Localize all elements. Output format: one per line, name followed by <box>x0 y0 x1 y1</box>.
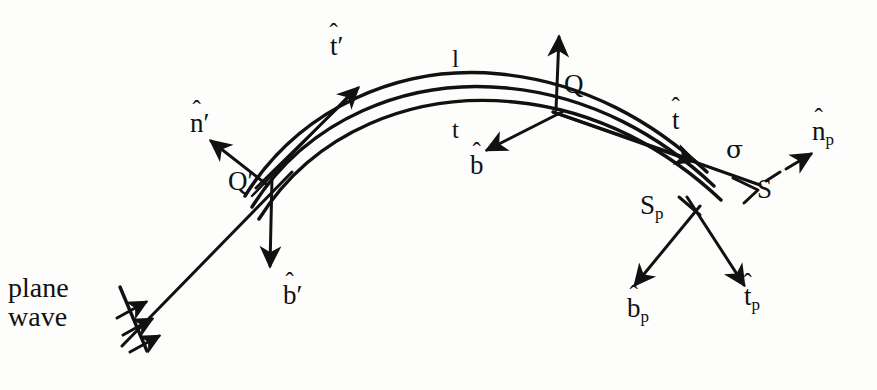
q-point-label: Q <box>564 71 584 98</box>
q-prime-point-label: Q′ <box>228 168 253 195</box>
s-p-point-label: Sp <box>640 192 664 222</box>
b-prime-label: ˆb′ <box>283 282 302 309</box>
b-p-label: ˆbp <box>627 295 649 325</box>
hat-accent-icon: ˆ <box>815 106 823 131</box>
ray-geometry-svg <box>0 0 877 390</box>
hat-accent-icon: ˆ <box>744 271 752 296</box>
b-hat-arrow <box>487 112 562 150</box>
n-prime-hatwrap: ˆn <box>190 110 204 137</box>
q-prime-mark: ′ <box>248 166 254 196</box>
t-hat-label: ˆt <box>672 107 680 134</box>
s-p-subscript: p <box>655 204 664 223</box>
hat-accent-icon: ˆ <box>193 98 201 123</box>
t-prime-hatwrap: ˆt <box>330 33 338 60</box>
s-point-label: S <box>757 176 772 203</box>
t-p-arrow <box>687 197 744 285</box>
b-prime-prime-mark: ′ <box>297 280 303 310</box>
t-lower-label: t <box>452 117 459 142</box>
plane-wave-line-1: plane <box>8 274 69 303</box>
figure-canvas: plane wave ˆn′ ˆt′ ˆb′ Q′ Q l t ˆb ˆt σ … <box>0 0 877 390</box>
hat-accent-icon: ˆ <box>473 140 481 165</box>
t-p-subscript: p <box>752 295 761 314</box>
hat-accent-icon: ˆ <box>286 270 294 295</box>
b-hat-label: ˆb <box>470 152 484 179</box>
t-prime-label: ˆt′ <box>330 33 343 60</box>
n-prime-prime-mark: ′ <box>204 108 210 138</box>
plane-wave-arrow-3 <box>130 336 159 352</box>
t-prime-prime-mark: ′ <box>338 31 344 61</box>
hat-accent-icon: ˆ <box>672 95 680 120</box>
wavefront-tick <box>120 287 147 351</box>
s-p-letter: S <box>640 190 655 220</box>
sigma-label: σ <box>726 137 743 162</box>
n-p-hatwrap: ˆn <box>812 118 826 145</box>
t-prime-arrow-second <box>252 92 352 196</box>
n-p-label: ˆnp <box>812 118 834 148</box>
b-p-subscript: p <box>641 307 650 326</box>
t-p-label: ˆtp <box>744 283 760 313</box>
hat-accent-icon: ˆ <box>630 283 638 308</box>
b-prime-arrow <box>270 178 272 266</box>
b-p-hatwrap: ˆb <box>627 295 641 322</box>
hat-accent-icon: ˆ <box>330 21 338 46</box>
n-p-dashed-arrow <box>766 154 811 181</box>
plane-wave-label: plane wave <box>8 274 69 331</box>
plane-wave-line-2: wave <box>8 303 69 332</box>
t-hat-hatwrap: ˆt <box>672 107 680 134</box>
t-p-hatwrap: ˆt <box>744 283 752 310</box>
curve-middle <box>252 87 714 207</box>
n-p-subscript: p <box>826 130 835 149</box>
b-prime-hatwrap: ˆb <box>283 282 297 309</box>
q-prime-letter: Q <box>228 166 248 196</box>
n-p-head <box>786 154 811 169</box>
n-prime-label: ˆn′ <box>190 110 209 137</box>
l-label: l <box>452 46 459 71</box>
n-hat-arrow <box>556 37 559 110</box>
b-hat-hatwrap: ˆb <box>470 152 484 179</box>
